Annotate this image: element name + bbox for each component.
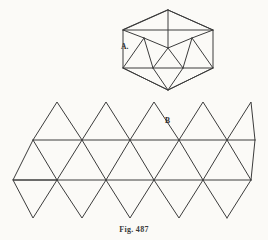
label-b: B bbox=[165, 117, 170, 125]
figure-page: A. B Fig. 487 bbox=[0, 0, 268, 240]
net-long-diagonals bbox=[227, 180, 251, 218]
net-diag-5 bbox=[130, 140, 154, 180]
solid-edge-mid-2 bbox=[183, 38, 192, 68]
solid-edge-mid-4 bbox=[168, 48, 183, 68]
net-peak-4 bbox=[179, 102, 227, 140]
net-diag-7 bbox=[179, 140, 203, 180]
solid-edge-mid-1 bbox=[144, 38, 153, 68]
net-diag-9 bbox=[227, 140, 251, 180]
solid-edge-top-right bbox=[168, 10, 213, 30]
net-peak-3 bbox=[130, 102, 179, 140]
net-diag-4 bbox=[106, 140, 130, 180]
net-peak-2 bbox=[82, 102, 130, 140]
net-lower-valleys bbox=[13, 180, 227, 218]
solid-edge-ul-a bbox=[123, 30, 144, 38]
net-peak-5 bbox=[227, 102, 255, 140]
net-diag-3 bbox=[82, 140, 106, 180]
net-diag-6 bbox=[154, 140, 179, 180]
net-valley-3 bbox=[106, 180, 154, 218]
solid-edge-ur-a bbox=[192, 30, 213, 38]
net-valley-2 bbox=[57, 180, 106, 218]
net-long-diag-right bbox=[227, 180, 251, 218]
solid-edge-top-left bbox=[123, 10, 168, 30]
net-peak-1 bbox=[33, 102, 82, 140]
icosahedron-net bbox=[13, 102, 255, 218]
net-diag-1 bbox=[33, 140, 57, 180]
net-diag-10 bbox=[251, 140, 255, 180]
label-a: A. bbox=[121, 43, 129, 51]
solid-edge-mid-6 bbox=[192, 38, 213, 68]
icosahedron-solid bbox=[123, 10, 213, 90]
net-diag-8 bbox=[203, 140, 227, 180]
geometry-figure bbox=[0, 0, 268, 240]
figure-caption: Fig. 487 bbox=[0, 225, 268, 234]
solid-edge-ur-b bbox=[168, 38, 192, 48]
net-upper-peaks bbox=[33, 102, 255, 140]
solid-edge-bot-left bbox=[123, 68, 168, 90]
net-valley-4 bbox=[154, 180, 203, 218]
net-diag-2 bbox=[57, 140, 82, 180]
solid-edge-ul-b bbox=[144, 38, 168, 48]
net-zig-1 bbox=[13, 140, 57, 180]
net-valley-1 bbox=[13, 180, 57, 218]
net-middle-band bbox=[13, 140, 255, 180]
solid-edge-mid-3 bbox=[153, 48, 168, 68]
solid-edge-bot-right bbox=[168, 68, 213, 90]
net-valley-5-edge bbox=[203, 180, 227, 218]
